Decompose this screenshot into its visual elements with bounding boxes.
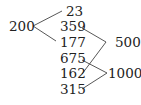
node-500: 500 xyxy=(115,35,141,49)
node-23: 23 xyxy=(66,4,83,18)
node-162: 162 xyxy=(60,66,86,80)
node-177: 177 xyxy=(60,35,86,49)
node-675: 675 xyxy=(60,51,86,65)
line-200-23 xyxy=(33,11,62,26)
node-200: 200 xyxy=(9,19,35,33)
node-1000: 1000 xyxy=(108,66,141,80)
node-315: 315 xyxy=(60,82,86,96)
line-200-177 xyxy=(33,26,56,41)
node-359: 359 xyxy=(60,19,86,33)
